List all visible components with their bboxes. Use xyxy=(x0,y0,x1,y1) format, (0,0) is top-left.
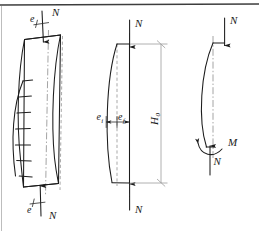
panel-right-equivalent-force-moment: N M N xyxy=(198,14,238,175)
panel-left-column-with-lateral-load: N e N e xyxy=(13,6,63,221)
panel-middle-deflected-column: N N ei ef H0 xyxy=(97,17,168,215)
middle-top-force-label: N xyxy=(134,17,143,29)
middle-additional-eccentricity-label: ef xyxy=(118,111,126,125)
figure-container: N e N e xyxy=(0,0,259,231)
right-bottom-force-label: N xyxy=(213,155,222,167)
left-top-force-label: N xyxy=(51,6,60,18)
middle-height-label: H0 xyxy=(148,113,163,126)
right-moment-label: M xyxy=(227,136,238,148)
left-bottom-eccentricity-label: e xyxy=(27,204,32,215)
left-top-eccentricity-label: e xyxy=(30,13,35,24)
right-top-force-label: N xyxy=(229,14,238,26)
right-deflected-member-curve xyxy=(201,43,213,147)
left-column-top-edge xyxy=(25,35,61,40)
left-bottom-force-arrow xyxy=(40,186,41,216)
column-diagram-svg: N e N e xyxy=(0,0,259,231)
left-bottom-force-label: N xyxy=(48,209,57,221)
left-bottom-eccentricity-bar xyxy=(30,202,45,204)
middle-bottom-force-label: N xyxy=(134,203,143,215)
left-bottom-eccentricity-tick xyxy=(32,199,34,207)
left-member-centerline xyxy=(46,30,49,196)
middle-column-left-face xyxy=(107,44,117,183)
middle-initial-eccentricity-label: ei xyxy=(97,111,104,125)
left-top-eccentricity-tick xyxy=(36,20,38,27)
left-column-bottom-edge xyxy=(24,184,59,188)
